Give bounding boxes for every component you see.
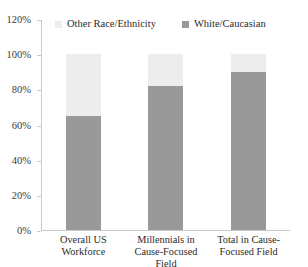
- y-tick-label-120: 120%: [7, 15, 32, 26]
- bar-group-overall-us-workforce[interactable]: [66, 20, 101, 230]
- plot-area: 120% 100% 80% 60% 40% 20% 0%: [41, 20, 290, 231]
- y-tick-120: 120%: [37, 20, 41, 21]
- y-tick-label-40: 40%: [12, 155, 31, 166]
- bar-group-total-cause-focused[interactable]: [231, 20, 266, 230]
- y-tick-label-20: 20%: [12, 191, 31, 202]
- y-tick-60: 60%: [37, 126, 41, 127]
- y-tick-label-80: 80%: [12, 85, 31, 96]
- bar-series-container: [42, 20, 290, 230]
- stacked-bar-chart: Other Race/Ethnicity White/Caucasian 120…: [0, 0, 308, 267]
- y-tick-40: 40%: [37, 161, 41, 162]
- y-tick-80: 80%: [37, 90, 41, 91]
- x-axis-labels: Overall US Workforce Millennials in Caus…: [42, 234, 290, 267]
- y-tick-label-60: 60%: [12, 120, 31, 131]
- bar-segment-white-caucasian[interactable]: [231, 72, 266, 230]
- x-axis-label-total-cause-focused: Total in Cause-Focused Field: [209, 234, 289, 267]
- bar-group-millennials-cause-focused[interactable]: [148, 20, 183, 230]
- bar-segment-other-race[interactable]: [66, 54, 101, 116]
- y-tick-100: 100%: [37, 55, 41, 56]
- x-axis-label-overall-us-workforce: Overall US Workforce: [43, 234, 123, 267]
- y-tick-20: 20%: [37, 196, 41, 197]
- y-tick-label-0: 0%: [17, 226, 31, 237]
- bar-segment-other-race[interactable]: [231, 54, 266, 72]
- bar-segment-other-race[interactable]: [148, 54, 183, 86]
- y-tick-label-100: 100%: [7, 50, 32, 61]
- x-axis-line: [41, 230, 290, 231]
- x-axis-label-millennials-cause-focused: Millennials in Cause-Focused Field: [126, 234, 206, 267]
- bar-segment-white-caucasian[interactable]: [66, 116, 101, 230]
- bar-segment-white-caucasian[interactable]: [148, 86, 183, 230]
- y-tick-0: 0%: [37, 231, 41, 232]
